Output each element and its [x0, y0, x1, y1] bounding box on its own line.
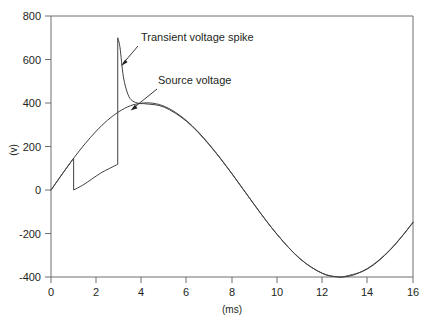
annotation-transient-voltage-spike: Transient voltage spike [121, 31, 254, 66]
x-tick-label-10: 10 [271, 286, 283, 298]
y-tick-label-600: 600 [23, 54, 41, 66]
x-axis-title: (ms) [222, 304, 242, 315]
chart-figure: 800 600 400 200 0 -200 -400 (v) 0 2 4 [0, 0, 429, 323]
annotation-label-transient: Transient voltage spike [141, 31, 254, 43]
x-tick-label-8: 8 [229, 286, 235, 298]
y-tick-label-neg400: -400 [19, 271, 41, 283]
y-tick-label-neg200: -200 [19, 228, 41, 240]
x-tick-label-0: 0 [48, 286, 54, 298]
x-tick-label-16: 16 [407, 286, 419, 298]
source-voltage-curve [51, 103, 413, 277]
x-tick-label-2: 2 [93, 286, 99, 298]
voltage-waveform-chart: 800 600 400 200 0 -200 -400 (v) 0 2 4 [0, 0, 429, 323]
x-tick-labels: 0 2 4 6 8 10 12 14 16 [48, 286, 419, 298]
x-tick-label-12: 12 [316, 286, 328, 298]
transient-voltage-curve [51, 38, 413, 277]
y-tick-label-200: 200 [23, 141, 41, 153]
annotation-label-source: Source voltage [158, 74, 231, 86]
plot-frame [51, 16, 413, 277]
x-axis-ticks [51, 277, 413, 283]
y-tick-label-0: 0 [35, 184, 41, 196]
y-axis-title: (v) [8, 144, 19, 156]
annotation-source-voltage: Source voltage [131, 74, 232, 111]
y-axis-ticks [45, 16, 51, 277]
x-tick-label-6: 6 [183, 286, 189, 298]
x-tick-label-14: 14 [361, 286, 373, 298]
y-tick-label-400: 400 [23, 97, 41, 109]
x-tick-label-4: 4 [138, 286, 144, 298]
y-tick-labels: 800 600 400 200 0 -200 -400 [19, 10, 41, 283]
y-tick-label-800: 800 [23, 10, 41, 22]
